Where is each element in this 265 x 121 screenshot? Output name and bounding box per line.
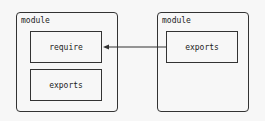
arrowhead-icon (103, 45, 109, 50)
arrow-connector (0, 0, 265, 121)
